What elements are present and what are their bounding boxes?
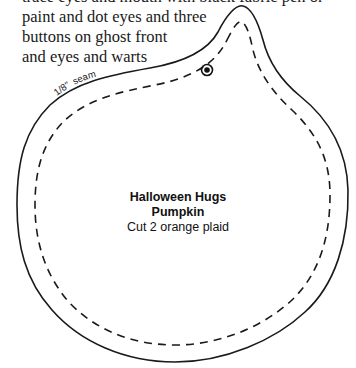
cut-instruction: Cut 2 orange plaid [0,220,356,235]
seam-allowance-label: 1/8" seam [51,68,96,98]
button-placement-icon [202,65,213,76]
pumpkin-pattern-piece: 1/8" seam [0,0,356,368]
cutting-line [17,6,348,362]
piece-title-line-2: Pumpkin [0,205,356,220]
pattern-piece-label: Halloween Hugs Pumpkin Cut 2 orange plai… [0,190,356,235]
seam-line [35,22,330,345]
piece-title-line-1: Halloween Hugs [0,190,356,205]
seam-fraction: 1/8" [51,79,71,98]
